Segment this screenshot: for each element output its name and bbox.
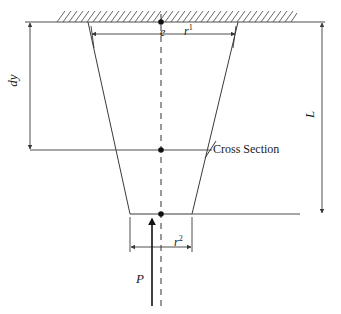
ground-hatching <box>57 11 297 22</box>
label-cross-section: Cross Section <box>213 143 279 155</box>
trapezoid-right-edge <box>192 22 238 214</box>
label-dy: dy <box>6 74 19 86</box>
trapezoid-left-edge <box>88 22 130 214</box>
label-r1-superscript: r1 <box>184 25 193 37</box>
label-L: L <box>303 111 316 118</box>
label-e: e <box>160 26 165 38</box>
figure-svg <box>0 0 341 314</box>
label-r2-sup: 2 <box>179 234 183 243</box>
node-point-middle <box>158 147 164 153</box>
label-P: P <box>136 272 144 285</box>
node-point-bottom <box>158 211 164 217</box>
dim-r1-ext-right <box>233 26 236 48</box>
label-r2-superscript: r2 <box>174 236 183 248</box>
node-point-top <box>158 19 164 25</box>
label-r1-sup: 1 <box>189 23 193 32</box>
diagram-canvas: dy L e r1 r2 P Cross Section <box>0 0 341 314</box>
pile-trapezoid <box>88 22 238 214</box>
